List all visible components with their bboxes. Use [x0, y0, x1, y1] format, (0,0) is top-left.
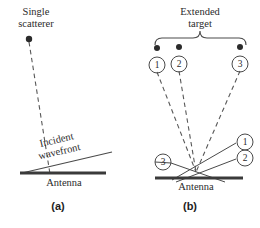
wavefront-number-1: 1	[238, 135, 252, 149]
panel-b-antenna-label: Antenna	[178, 181, 214, 193]
extended-target-label: Extended target	[180, 6, 220, 30]
extended-target-brace	[155, 31, 246, 45]
radar-scatterer-diagram: Single scatterer Incident wavefront Ante…	[0, 0, 260, 228]
panel-a-antenna-label: Antenna	[46, 177, 82, 189]
scatterer-dot-3	[237, 44, 243, 50]
single-scatterer-label: Single scatterer	[18, 6, 54, 30]
panel-b-ray-2	[179, 71, 196, 172]
panel-b-antenna-bar	[155, 177, 243, 180]
panel-b-caption: (b)	[183, 200, 197, 212]
panel-b-ray-3	[196, 71, 240, 172]
wavefront-number-2: 2	[238, 151, 252, 165]
panel-a-caption: (a)	[51, 200, 64, 212]
scatterer-number-2: 2	[172, 57, 186, 71]
diagram-canvas	[0, 0, 260, 228]
scatterer-dot-1	[154, 45, 160, 51]
scatterer-dot-2	[176, 44, 182, 50]
scatterer-number-3: 3	[233, 57, 247, 71]
scatterer-number-1: 1	[150, 58, 164, 72]
wavefront-number-3: 3	[156, 155, 170, 169]
single-scatterer-dot	[26, 36, 32, 42]
panel-a-antenna-bar	[20, 172, 106, 175]
